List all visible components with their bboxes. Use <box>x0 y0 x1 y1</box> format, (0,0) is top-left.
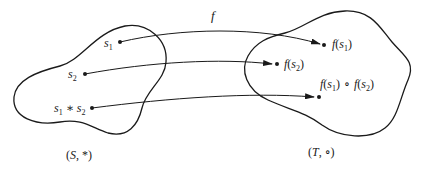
label-fs2: f(s2) <box>284 57 304 73</box>
label-s2: s2 <box>68 67 77 83</box>
label-s1: s1 <box>104 36 113 52</box>
label-fs1: f(s1) <box>332 37 352 53</box>
map-label: f <box>211 8 217 23</box>
point-s2 <box>83 72 87 76</box>
codomain-set-blob <box>245 11 411 136</box>
codomain-set-label: (T, ∘) <box>308 145 335 159</box>
domain-set-label: (S, *) <box>66 148 92 162</box>
point-s1 <box>118 40 122 44</box>
arrow-s1-to-fs1 <box>120 31 320 44</box>
label-fs1-circ-fs2: f(s1)∘f(s2) <box>320 77 374 93</box>
domain-set-blob <box>14 25 166 134</box>
label-s1-star-s2: s1∗s2 <box>54 101 86 117</box>
point-s1-star-s2 <box>90 106 94 110</box>
homomorphism-diagram: f s1 s2 s1∗s2 f(s1) f(s2) f(s1)∘f(s2) (S… <box>0 0 422 169</box>
arrow-s1s2-to-fs1fs2 <box>92 95 314 108</box>
point-fs1-circ-fs2 <box>317 95 321 99</box>
point-fs1 <box>322 43 326 47</box>
point-fs2 <box>275 62 279 66</box>
